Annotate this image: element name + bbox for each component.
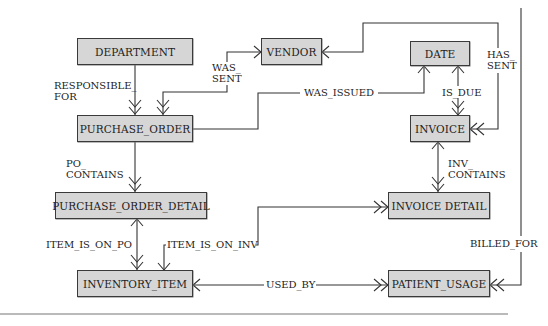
- entity-label: INVOICE: [415, 123, 465, 135]
- rel-label-item-is-on-po: ITEM_IS_ON_PO: [46, 239, 132, 250]
- line-was-issued-right: [378, 66, 424, 93]
- er-diagram: DEPARTMENT VENDOR DATE PURCHASE_ORDER IN…: [0, 0, 548, 326]
- rel-label-item-is-on-inv: ITEM_IS_ON_INV: [167, 239, 258, 250]
- entity-label: DEPARTMENT: [95, 46, 175, 58]
- line-billed-for-lower: [490, 252, 521, 285]
- line-was-sent-lower: [163, 85, 227, 115]
- line-was-issued-left: [193, 93, 300, 129]
- entity-label: PATIENT_USAGE: [392, 278, 486, 290]
- entity-label: PURCHASE_ORDER: [80, 123, 190, 135]
- rel-label-line: INV_: [448, 158, 506, 169]
- rel-label-po-contains: PO_ CONTAINS: [66, 158, 124, 180]
- rel-label-was-sent: WAS_ SENT: [212, 62, 242, 84]
- rel-label-line: FOR: [54, 91, 136, 102]
- rel-label-used-by: USED_BY: [266, 279, 315, 290]
- rel-label-inv-contains: INV_ CONTAINS: [448, 158, 506, 180]
- rel-label-has-sent: HAS_ SENT: [487, 49, 517, 71]
- entity-vendor: VENDOR: [261, 38, 322, 65]
- rel-label-is-due: IS_DUE: [442, 87, 482, 98]
- rel-label-line: WAS_: [212, 62, 242, 73]
- rel-label-line: SENT: [212, 73, 242, 84]
- rel-label-line: CONTAINS: [66, 169, 124, 180]
- entity-purchase-order-detail: PURCHASE_ORDER_DETAIL: [55, 192, 207, 219]
- entity-department: DEPARTMENT: [77, 38, 193, 65]
- entity-label: PURCHASE_ORDER_DETAIL: [52, 200, 210, 212]
- line-has-sent-lower: [470, 73, 498, 129]
- entity-invoice: INVOICE: [410, 115, 470, 142]
- rel-label-line: HAS_: [487, 49, 517, 60]
- entity-label: DATE: [425, 48, 456, 60]
- entity-patient-usage: PATIENT_USAGE: [388, 270, 490, 297]
- entity-invoice-detail: INVOICE DETAIL: [388, 192, 490, 219]
- entity-label: INVOICE DETAIL: [391, 200, 486, 212]
- rel-label-line: PO_: [66, 158, 124, 169]
- rel-label-line: RESPONSIBLE_: [54, 80, 136, 91]
- rel-label-responsible-for: RESPONSIBLE_ FOR: [54, 80, 136, 102]
- entity-inventory-item: INVENTORY_ITEM: [77, 270, 193, 297]
- rel-label-billed-for: BILLED_FOR: [470, 238, 538, 249]
- rel-label-was-issued: WAS_ISSUED: [304, 87, 374, 98]
- rel-label-line: SENT: [487, 60, 517, 71]
- line-item-is-on-inv-right: [256, 207, 388, 245]
- entity-label: INVENTORY_ITEM: [83, 278, 187, 290]
- rel-label-line: CONTAINS: [448, 169, 506, 180]
- line-item-is-on-inv-left: [164, 245, 166, 270]
- entity-purchase-order: PURCHASE_ORDER: [77, 115, 193, 142]
- entity-date: DATE: [410, 41, 470, 66]
- entity-label: VENDOR: [267, 46, 317, 58]
